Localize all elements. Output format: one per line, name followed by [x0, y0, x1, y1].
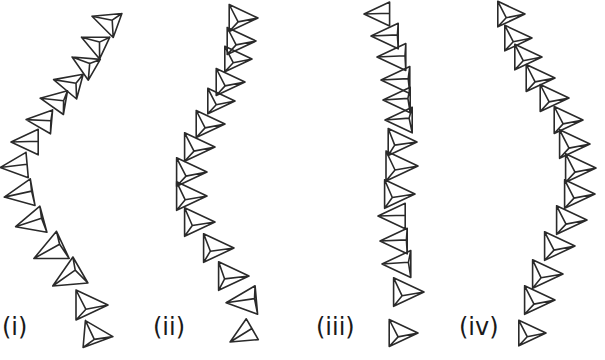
tetrahedron: [26, 110, 52, 134]
tetrahedron: [505, 25, 532, 51]
tetrahedron: [226, 286, 258, 314]
tetrahedron: [185, 133, 215, 162]
tetrahedron: [208, 88, 235, 114]
tetrahedron: [554, 107, 583, 134]
tetrahedron: [204, 234, 234, 262]
tetrahedron: [545, 232, 575, 260]
tetrahedron: [557, 206, 587, 235]
tetrahedron: [364, 2, 390, 26]
tetrahedron: [40, 91, 67, 115]
tetrahedra-sequence-figure: (i) (ii) (iii) (iv): [0, 0, 605, 360]
tetrahedron: [216, 69, 245, 96]
tetrahedron: [566, 154, 596, 183]
tetrahedron: [227, 28, 256, 55]
tetrahedron: [498, 1, 525, 27]
panel-1-tetrahedra: [0, 14, 122, 348]
tetrahedron: [177, 158, 207, 187]
tetrahedron: [230, 319, 258, 342]
panel-4-tetrahedra: [498, 1, 596, 346]
tetrahedron: [377, 44, 406, 71]
tetrahedron: [219, 262, 249, 291]
tetrahedron: [389, 320, 418, 347]
tetrahedron: [53, 257, 88, 286]
tetrahedron: [34, 231, 69, 258]
tetrahedron: [386, 151, 418, 181]
tetrahedron: [0, 152, 28, 177]
panel-label-i: (i): [2, 313, 27, 341]
figure-canvas: [0, 0, 605, 360]
panel-label-iv: (iv): [459, 313, 499, 341]
tetrahedron: [76, 290, 108, 320]
tetrahedron: [4, 179, 35, 206]
tetrahedron: [560, 130, 590, 159]
tetrahedron: [16, 206, 47, 232]
panel-label-ii: (ii): [153, 313, 185, 341]
tetrahedron: [385, 180, 415, 209]
tetrahedron: [54, 74, 84, 99]
tetrahedron: [229, 5, 258, 32]
tetrahedron: [519, 320, 546, 346]
tetrahedron: [380, 228, 407, 254]
tetrahedron: [185, 208, 215, 237]
tetrahedron: [177, 182, 207, 211]
tetrahedron: [82, 37, 110, 59]
panel-label-iii: (iii): [316, 313, 355, 341]
panel-3-tetrahedra: [364, 2, 424, 347]
tetrahedron: [394, 278, 424, 307]
tetrahedron: [72, 57, 100, 80]
panel-2-tetrahedra: [177, 5, 259, 343]
tetrahedron: [371, 23, 398, 49]
tetrahedron: [11, 129, 38, 155]
tetrahedron: [525, 286, 555, 315]
tetrahedron: [565, 180, 595, 209]
tetrahedron: [92, 14, 122, 38]
tetrahedron: [378, 203, 405, 229]
tetrahedron: [382, 251, 411, 278]
tetrahedron: [196, 111, 225, 138]
tetrahedron: [83, 321, 113, 348]
tetrahedron: [533, 260, 563, 289]
